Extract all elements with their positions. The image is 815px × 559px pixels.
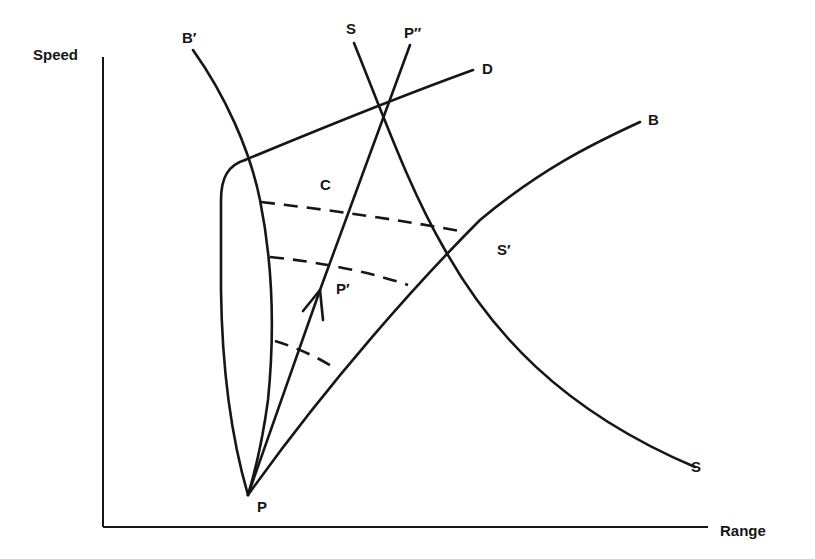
line-p-double-prime xyxy=(248,45,410,495)
label-s-top: S xyxy=(346,20,356,37)
label-s-prime: S′ xyxy=(497,241,511,258)
curve-d xyxy=(245,70,473,160)
label-d: D xyxy=(482,60,493,77)
label-p-prime: P′ xyxy=(336,280,350,297)
label-p-double-prime: P″ xyxy=(404,24,421,41)
curve-s xyxy=(354,43,695,467)
dashed-line-upper xyxy=(261,202,460,231)
x-axis-label: Range xyxy=(720,522,766,539)
curve-b xyxy=(248,122,640,495)
y-axis-label: Speed xyxy=(33,46,78,63)
curve-envelope xyxy=(221,160,248,495)
label-b: B xyxy=(648,111,659,128)
dashed-line-lower xyxy=(275,341,336,369)
label-b-prime: B′ xyxy=(182,29,197,46)
arrow-head-icon xyxy=(303,290,323,320)
label-s-bottom: S xyxy=(691,458,701,475)
speed-range-diagram: Speed Range B′ S P″ D B C S′ P′ S P xyxy=(0,0,815,559)
label-p: P xyxy=(257,498,267,515)
label-c: C xyxy=(320,176,331,193)
